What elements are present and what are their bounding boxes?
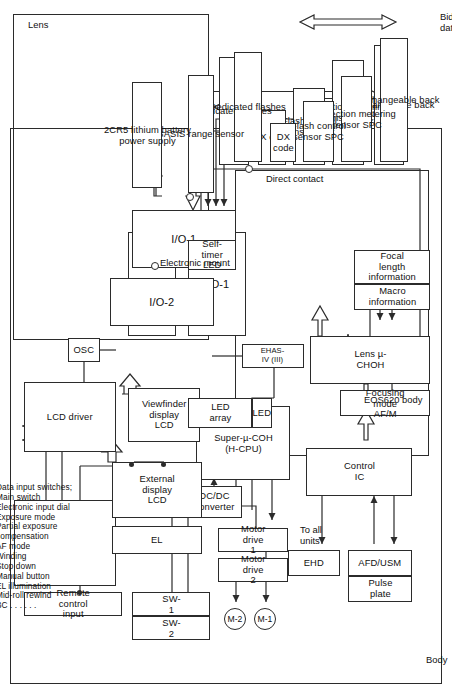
block-label: SW-2 <box>162 617 180 638</box>
junction-power-2 <box>129 462 134 467</box>
accessory-interchangeable-back[interactable]: Interchangeable back <box>380 38 408 162</box>
lens-mucho[interactable]: Lens µ-CHOH <box>310 336 430 384</box>
data-input-switches-list: Data input switches; Main switch Electro… <box>0 480 100 614</box>
block-label: LED <box>253 408 272 419</box>
block-label: Dedicated flashes <box>210 102 286 113</box>
junction-lens-bus <box>186 193 194 201</box>
block-sw1[interactable]: SW-1 <box>132 592 210 616</box>
motor-2[interactable]: M-2 <box>224 608 246 630</box>
block-label: Motor drive 2 <box>241 554 265 586</box>
accessory-dx-code[interactable]: DX code <box>270 123 296 162</box>
block-osc[interactable]: OSC <box>68 338 100 362</box>
junction-power-1 <box>161 462 166 467</box>
label-direct-contact-lens: Direct contact <box>266 174 323 185</box>
block-label: Super-µ-COH (H-CPU) <box>214 432 273 453</box>
note-to-all-units: To all units <box>300 525 322 546</box>
body-battery[interactable]: 2CR5 lithium battery power supply <box>132 82 162 188</box>
block-external-lcd[interactable]: External display LCD <box>112 462 202 518</box>
block-label: LCD driver <box>47 412 93 423</box>
block-label: OSC <box>74 345 95 356</box>
motor-label: M-2 <box>228 614 243 624</box>
junction-power-3 <box>77 590 82 595</box>
block-label: I/O-2 <box>150 296 175 308</box>
block-ehas[interactable]: EHAS-IV (III) <box>242 344 304 368</box>
accessory-dedicated-flashes[interactable]: Dedicated flashes <box>234 52 262 162</box>
block-motor-drive-2[interactable]: Motor drive 2 <box>218 558 288 582</box>
lens-ehd[interactable]: EHD <box>288 550 340 576</box>
junction-flash-bus <box>245 165 253 173</box>
motor-label: M-1 <box>258 614 273 624</box>
block-label: Control IC <box>338 461 380 482</box>
block-sw2[interactable]: SW-2 <box>132 616 210 640</box>
block-label: EHD <box>304 558 324 569</box>
block-label: Macro information <box>368 286 415 307</box>
label-electronic-mount: Electronic mount <box>160 258 230 269</box>
lens-macro-info[interactable]: Macro information <box>354 284 430 310</box>
block-label: EHAS-IV (III) <box>261 348 285 365</box>
accessory-flash-sensor[interactable]: Flash control sensor SPC <box>303 101 334 162</box>
block-label: Lens µ-CHOH <box>349 349 391 370</box>
block-motor-drive-1[interactable]: Motor drive 1 <box>218 528 288 552</box>
block-label: External display LCD <box>132 474 182 506</box>
block-label: Viewfinder display LCD <box>140 399 188 431</box>
block-label: Focal length information <box>368 251 415 283</box>
block-led[interactable]: LED <box>252 398 272 428</box>
block-label: SW-1 <box>162 593 180 614</box>
block-label: Pulse plate <box>368 578 392 599</box>
block-lcd-driver[interactable]: LCD driver <box>24 382 116 452</box>
lens-afd-usm[interactable]: AFD/USM <box>348 550 412 576</box>
block-label: DX code <box>267 132 300 153</box>
lens-pulse-plate[interactable]: Pulse plate <box>348 576 412 602</box>
diagram-canvas: Lens Body EOS620 body Bidirectional data… <box>0 0 452 694</box>
group-label-body: Body <box>426 655 447 666</box>
block-label: LED array <box>208 402 232 423</box>
block-label: Motor drive 1 <box>241 524 265 556</box>
block-el[interactable]: EL <box>112 526 202 554</box>
group-label-eos620: EOS620 body <box>364 395 422 406</box>
lens-focal-length-info[interactable]: Focal length information <box>354 250 430 284</box>
data-input-switches-box[interactable]: Data input switches; Main switch Electro… <box>14 500 116 586</box>
block-led-array[interactable]: LED array <box>188 398 252 428</box>
block-label: AFD/USM <box>359 558 402 569</box>
motor-1[interactable]: M-1 <box>254 608 276 630</box>
junction-mount-bus <box>151 262 159 270</box>
block-label: EL <box>151 535 163 546</box>
block-label: 2CR5 lithium battery power supply <box>104 124 191 145</box>
io2-block[interactable]: I/O-2 <box>110 278 214 326</box>
body-basis-range-sensor[interactable]: BASIS range sensor <box>188 75 214 193</box>
group-label-lens: Lens <box>28 20 48 31</box>
note-bidirectional-bus: Bidirectional data bus for data communic… <box>440 12 452 33</box>
lens-control-ic[interactable]: Control IC <box>306 448 412 496</box>
